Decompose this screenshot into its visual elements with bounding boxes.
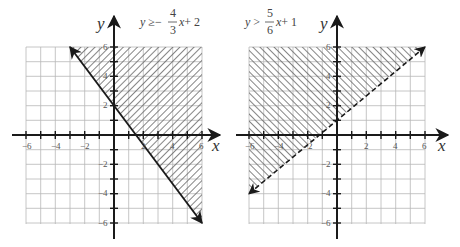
svg-text:−4: −4 (274, 141, 284, 151)
right-graph: −6 −4 −2 2 4 6 6 4 2 −2 −4 −6 y x y > 5 … (236, 6, 448, 239)
svg-text:4: 4 (326, 71, 331, 81)
svg-text:y ≥−: y ≥− (139, 15, 162, 29)
svg-text:−2: −2 (321, 159, 331, 169)
svg-text:−2: −2 (98, 159, 108, 169)
svg-text:−2: −2 (303, 141, 313, 151)
svg-text:4: 4 (170, 6, 176, 20)
left-inequality-label: y ≥− 4 3 x+ 2 (139, 6, 200, 37)
inequality-graphs: −6 −4 −2 2 4 6 6 4 2 −2 −4 −6 y x y ≥− 4… (0, 0, 460, 247)
svg-text:x+ 2: x+ 2 (178, 15, 200, 29)
left-graph: −6 −4 −2 2 4 6 6 4 2 −2 −4 −6 y x y ≥− 4… (12, 6, 220, 239)
svg-text:4: 4 (103, 71, 108, 81)
svg-text:2: 2 (103, 100, 108, 110)
svg-text:2: 2 (141, 141, 146, 151)
left-x-axis-label: x (211, 136, 220, 155)
svg-text:2: 2 (326, 100, 331, 110)
svg-text:−4: −4 (321, 188, 331, 198)
svg-text:−4: −4 (98, 188, 108, 198)
svg-text:y >: y > (244, 15, 260, 29)
svg-text:6: 6 (267, 23, 273, 37)
svg-text:5: 5 (267, 6, 273, 20)
svg-text:6: 6 (103, 42, 108, 52)
svg-text:4: 4 (170, 141, 175, 151)
svg-text:6: 6 (422, 141, 427, 151)
svg-text:6: 6 (326, 42, 331, 52)
svg-text:6: 6 (199, 141, 204, 151)
svg-text:−6: −6 (321, 218, 331, 228)
svg-text:−4: −4 (51, 141, 61, 151)
svg-text:2: 2 (364, 141, 369, 151)
left-y-axis-label: y (95, 14, 105, 33)
svg-text:4: 4 (393, 141, 398, 151)
right-x-axis-label: x (437, 136, 446, 155)
svg-text:−2: −2 (80, 141, 90, 151)
right-inequality-label: y > 5 6 x+ 1 (244, 6, 297, 37)
svg-text:3: 3 (170, 23, 176, 37)
svg-text:−6: −6 (245, 141, 255, 151)
svg-text:x+ 1: x+ 1 (275, 15, 297, 29)
svg-text:−6: −6 (22, 141, 32, 151)
svg-text:−6: −6 (98, 218, 108, 228)
right-y-axis-label: y (318, 14, 328, 33)
